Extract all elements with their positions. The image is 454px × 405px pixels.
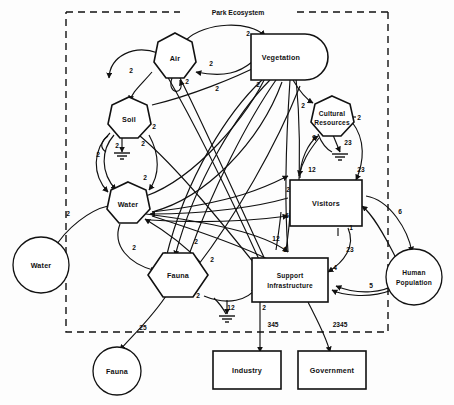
edge-label-e-vis-12: 12 [308,166,316,173]
edge-label-e-veg-down: 2 [256,81,260,88]
boundary-label: Park Ecosystem [212,9,265,17]
node-fauna-internal-label: Fauna [167,271,190,280]
edge-label-e-fauna-ext: 25 [139,324,147,331]
edge-label-e-water-fauna: 2 [132,244,136,251]
node-water-external-label: Water [31,261,52,270]
edge-label-e-ind: 345 [267,321,278,328]
node-fauna-external[interactable]: Fauna [93,347,141,395]
node-cultural-label-line2: Resources [314,119,350,126]
node-water-external[interactable]: Water [13,237,69,293]
edge-label-e-sup-2: 2 [262,304,266,311]
edge-label-e-soil-gnd2: 2 [96,151,100,158]
edge-label-e-sup-12: 12 [272,235,280,242]
edge-label-e-cult-low: 2 [312,134,316,141]
park-ecosystem-diagram: Park Ecosystem [0,0,454,405]
edge-label-e-water-in: 2 [66,210,70,217]
edge-label-e-air-veg: 2 [246,30,250,37]
node-industry[interactable]: Industry [213,351,281,389]
node-support-label-line2: Infrastructure [267,282,313,289]
edge-label-e-human-out: 5 [369,282,373,289]
diagram-canvas: Park Ecosystem [0,0,454,405]
edge-label-e-cult-right: 2 [357,114,361,121]
node-government-label: Government [310,366,355,375]
edge-label-e-vis-left2: 2 [286,186,290,193]
node-water-internal[interactable]: Water [107,182,150,223]
node-cultural-resources[interactable]: Cultural Resources [311,96,354,136]
edge-label-e-cult-in: 2 [301,102,305,109]
node-water-internal-label: Water [118,200,139,209]
node-air[interactable]: Air [154,33,196,78]
edge-label-e-water-up: 2 [143,174,147,181]
node-human-population[interactable]: Human Population [386,249,442,305]
edge-label-e-human-in: 6 [398,208,402,215]
node-human-label-line1: Human [402,269,425,276]
edge-label-e-vis-23: 23 [357,166,365,173]
edge-label-e-soil-b: 2 [141,140,145,147]
node-human-label-line2: Population [396,279,432,287]
edge-label-e-fauna-in: 2 [194,238,198,245]
edge-label-e-veg-air: 2 [209,60,213,67]
node-soil[interactable]: Soil [108,97,151,138]
edge-label-e-soil-gnd: 2 [115,142,119,149]
node-visitors[interactable]: Visitors [290,180,362,226]
edge-label-e-fauna-left: 2 [210,256,214,263]
edge-label-e-air-self: 2 [185,78,189,85]
node-government[interactable]: Government [298,351,366,389]
node-vegetation-label: Vegetation [262,53,300,62]
node-support-label-line1: Support [277,272,304,280]
edge-label-e-sup-gnd: 12 [227,304,235,311]
node-cultural-label-line1: Cultural [319,110,346,117]
edge-label-e-fauna-bot: 2 [196,292,200,299]
node-vegetation[interactable]: Vegetation [251,34,328,80]
system-boundary [66,12,388,332]
edge-label-e-vis-1: 1 [349,224,353,231]
node-air-label: Air [170,54,181,63]
cultural-ground-symbol [318,134,348,160]
edge-label-e-vis-left6: 6 [285,212,289,219]
node-support-infrastructure[interactable]: Support Infrastructure [252,258,328,302]
node-industry-label: Industry [232,366,262,375]
edge-label-e-cult-gnd: 23 [344,139,352,146]
node-soil-label: Soil [122,115,136,124]
node-fauna-internal[interactable]: Fauna [148,253,208,297]
edge-label-e-gov: 2345 [333,321,348,328]
edge-label-e-sup-3: 3 [283,246,287,253]
edge-label-e-vis-4: 4 [333,264,337,271]
node-fauna-external-label: Fauna [106,367,129,376]
edge-label-e-air-soil: 2 [129,67,133,74]
edge-label-e-soil-a: 2 [152,123,156,130]
edge-label-e-cross-mid: 2 [215,85,219,92]
edge-label-e-vis-23b: 23 [346,246,354,253]
node-visitors-label: Visitors [312,199,340,208]
